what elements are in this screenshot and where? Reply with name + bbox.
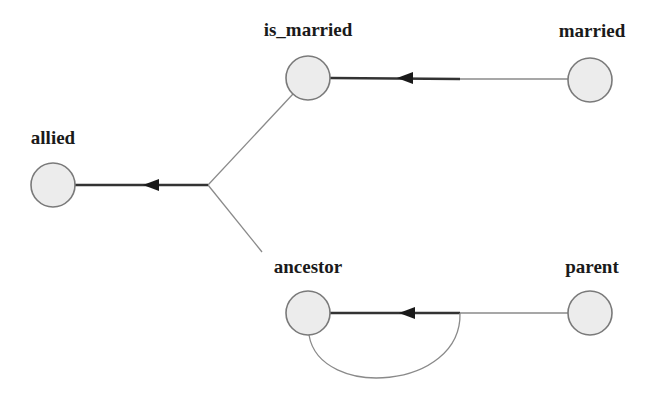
arrowhead-icon: [399, 307, 415, 319]
edge-is-married-and-ancestor-to-junction: [208, 94, 293, 252]
node-label: is_married: [264, 19, 353, 40]
node-label: married: [559, 20, 626, 41]
arrowhead-icon: [143, 179, 159, 191]
dependency-graph: is_married married allied ancestor paren…: [0, 0, 656, 402]
node-allied[interactable]: allied: [31, 127, 76, 207]
node-is-married[interactable]: is_married: [264, 19, 353, 100]
node-label: parent: [565, 256, 619, 277]
edge-ancestor-self-loop: [309, 313, 460, 378]
node-parent[interactable]: parent: [565, 256, 619, 335]
arrowhead-icon: [397, 72, 413, 84]
edge-junction-to-allied: [75, 179, 208, 191]
edge-married-to-is-married: [330, 72, 568, 84]
edge-parent-to-ancestor: [330, 307, 568, 319]
node-married[interactable]: married: [559, 20, 626, 102]
node-label: ancestor: [274, 256, 343, 277]
node-label: allied: [31, 127, 76, 148]
node-ancestor[interactable]: ancestor: [274, 256, 343, 335]
